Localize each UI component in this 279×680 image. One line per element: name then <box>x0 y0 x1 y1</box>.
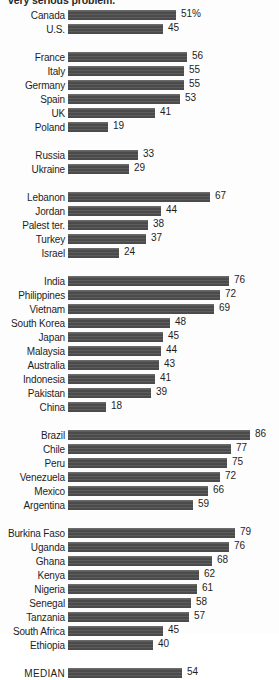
chart-row: Palest ter.38 <box>0 218 279 232</box>
bar-value: 67 <box>215 190 226 202</box>
row-label: Italy <box>0 65 65 78</box>
bar <box>68 80 184 90</box>
bar-track <box>68 80 279 90</box>
bar-value: 44 <box>166 344 177 356</box>
row-label: Mexico <box>0 485 65 498</box>
bar-track <box>68 122 279 132</box>
bar <box>68 66 184 76</box>
bar-track <box>68 500 279 510</box>
chart-row: Tanzania57 <box>0 610 279 624</box>
chart-row: South Africa45 <box>0 624 279 638</box>
bar-value: 45 <box>168 330 179 342</box>
row-label: Philippines <box>0 289 65 302</box>
row-label: Burkina Faso <box>0 527 65 540</box>
bar-value: 56 <box>192 50 203 62</box>
bar-value: 41 <box>160 372 171 384</box>
chart-row: China18 <box>0 400 279 414</box>
bar <box>68 304 214 314</box>
bar-value: 76 <box>234 274 245 286</box>
bar-track <box>68 150 279 160</box>
bar-value: 45 <box>168 624 179 636</box>
row-label: Peru <box>0 457 65 470</box>
group-separator <box>0 260 279 274</box>
bar-track <box>68 52 279 62</box>
bar-value: 54 <box>187 666 198 678</box>
chart-row: Uganda76 <box>0 540 279 554</box>
bar <box>68 234 146 244</box>
chart-row: Mexico66 <box>0 484 279 498</box>
bar <box>68 528 235 538</box>
bar <box>68 458 227 468</box>
bar-value: 45 <box>168 22 179 34</box>
chart-row: Brazil86 <box>0 428 279 442</box>
chart-row: Australia43 <box>0 358 279 372</box>
bar-track <box>68 220 279 230</box>
bar-track <box>68 402 279 412</box>
bar-value: 37 <box>151 232 162 244</box>
row-label: Turkey <box>0 233 65 246</box>
bar-value: 72 <box>225 288 236 300</box>
row-label: Argentina <box>0 499 65 512</box>
bar-track <box>68 164 279 174</box>
bar-track <box>68 108 279 118</box>
row-label: Australia <box>0 359 65 372</box>
bar-value: 76 <box>234 540 245 552</box>
bar <box>68 584 197 594</box>
bar-value: 72 <box>225 470 236 482</box>
bar-track <box>68 10 279 20</box>
group-separator <box>0 652 279 666</box>
bar-value: 24 <box>124 246 135 258</box>
bar-value: 57 <box>194 610 205 622</box>
bar <box>68 220 148 230</box>
group-separator <box>0 414 279 428</box>
chart-row: Argentina59 <box>0 498 279 512</box>
row-label: Malaysia <box>0 345 65 358</box>
bar-value: 39 <box>156 386 167 398</box>
bar-track <box>68 374 279 384</box>
bar <box>68 430 250 440</box>
chart-row: Israel24 <box>0 246 279 260</box>
row-label: Poland <box>0 121 65 134</box>
bar-track <box>68 318 279 328</box>
bar-track <box>68 234 279 244</box>
chart-row: MEDIAN54 <box>0 666 279 680</box>
row-label: Chile <box>0 443 65 456</box>
chart-row: Kenya62 <box>0 568 279 582</box>
chart-row: Pakistan39 <box>0 386 279 400</box>
bar-value: 69 <box>219 302 230 314</box>
chart-row: Senegal58 <box>0 596 279 610</box>
bar <box>68 108 155 118</box>
bar <box>68 374 155 384</box>
bar-track <box>68 94 279 104</box>
row-label: South Africa <box>0 625 65 638</box>
chart-row: Jordan44 <box>0 204 279 218</box>
row-label: Brazil <box>0 429 65 442</box>
bar-value: 19 <box>113 120 124 132</box>
row-label: Ghana <box>0 555 65 568</box>
chart-row: U.S.45 <box>0 22 279 36</box>
chart-rows: Canada51%U.S.45France56Italy55Germany55S… <box>0 8 279 680</box>
row-label: Venezuela <box>0 471 65 484</box>
bar <box>68 570 199 580</box>
bar-value: 58 <box>196 596 207 608</box>
bar <box>68 248 119 258</box>
bar-track <box>68 290 279 300</box>
chart-row: Poland19 <box>0 120 279 134</box>
chart-row: UK41 <box>0 106 279 120</box>
chart-row: Indonesia41 <box>0 372 279 386</box>
row-label: U.S. <box>0 23 65 36</box>
bar-value: 29 <box>134 162 145 174</box>
bar-track <box>68 458 279 468</box>
bar-value: 33 <box>143 148 154 160</box>
bar-value: 79 <box>240 526 251 538</box>
bar-value: 62 <box>204 568 215 580</box>
bar-track <box>68 570 279 580</box>
bar-track <box>68 388 279 398</box>
row-label: MEDIAN <box>0 667 65 680</box>
bar <box>68 486 208 496</box>
bar <box>68 318 170 328</box>
bar-value: 40 <box>158 638 169 650</box>
chart-row: Philippines72 <box>0 288 279 302</box>
row-label: Jordan <box>0 205 65 218</box>
bar-value: 43 <box>164 358 175 370</box>
